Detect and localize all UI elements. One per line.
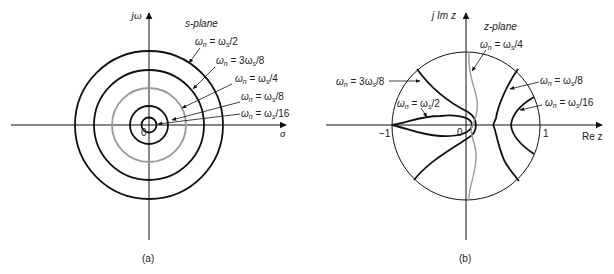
eq-omega: = ω xyxy=(557,97,576,108)
pointer-a-sixteenth xyxy=(158,114,240,124)
omega-n: ω xyxy=(336,76,344,87)
re-z-axis-label: Re z xyxy=(582,131,603,142)
label-a-half: ωn = ωs/2 xyxy=(195,36,238,48)
ratio: /2 xyxy=(431,98,440,109)
eq-omega: = ω xyxy=(253,91,272,102)
im-z-axis-label: j Im z xyxy=(430,10,456,21)
caption-a: (a) xyxy=(142,253,154,264)
z-plane-label: z-plane xyxy=(483,21,517,32)
pointer-b-half xyxy=(421,108,427,117)
eq-omega: = ω xyxy=(492,39,511,50)
origin-label-b: 0 xyxy=(457,127,463,138)
ratio: /8 xyxy=(275,91,284,102)
omega-n: ω xyxy=(235,73,243,84)
caption-b: (b) xyxy=(459,253,471,264)
pointer-b-eighth xyxy=(510,82,539,89)
ratio: /8 xyxy=(376,76,385,87)
label-b-eighth: ωn = ωs/8 xyxy=(540,75,583,87)
ratio: /8 xyxy=(574,75,583,86)
re-z-text: Re z xyxy=(582,131,603,142)
omega-n: ω xyxy=(241,91,249,102)
eq-omega: = ω xyxy=(247,73,266,84)
s-plane-text: s-plane xyxy=(185,18,218,29)
eq-omega: = ω xyxy=(409,98,428,109)
eq-omega: = ω xyxy=(552,75,571,86)
label-a-quarter: ωn = ωs/4 xyxy=(235,73,278,85)
omega-n: ω xyxy=(540,75,548,86)
label-b-sixteenth: ωn = ωs/16 xyxy=(545,97,594,109)
origin-label-a: 0 xyxy=(141,127,147,138)
ratio: /8 xyxy=(256,55,265,66)
label-a-three-eighths: ωn = 3ωs/8 xyxy=(216,55,265,67)
im-z-text: j Im z xyxy=(430,10,456,21)
ratio: /2 xyxy=(229,36,238,47)
omega-n: ω xyxy=(216,55,224,66)
omega-n: ω xyxy=(195,36,203,47)
eq-omega: = ω xyxy=(253,108,272,119)
eq-omega: = ω xyxy=(207,36,226,47)
tick-label-one: 1 xyxy=(543,128,549,139)
panel-b-z-plane: j Im z z-plane Re z 0 −1 1 (b) ωn = ωs/4… xyxy=(326,10,603,264)
sigma-axis-label: σ xyxy=(280,127,286,139)
ratio: /16 xyxy=(275,108,289,119)
label-a-sixteenth: ωn = ωs/16 xyxy=(241,108,290,120)
ratio: /4 xyxy=(514,39,523,50)
label-b-three-eighths: ωn = 3ωs/8 xyxy=(336,76,385,88)
omega-n: ω xyxy=(397,98,405,109)
label-a-eighth: ωn = ωs/8 xyxy=(241,91,284,103)
pointer-b-sixteenth xyxy=(520,105,542,110)
pointer-a-eighth xyxy=(172,102,240,120)
label-b-half: ωn = ωs/2 xyxy=(397,98,440,110)
panel-a-s-plane: jω s-plane σ 0 (a) ωn = ωs/2 ωn = 3ωs/8 … xyxy=(11,9,290,264)
z-plane-text: z-plane xyxy=(483,21,517,32)
ratio: /16 xyxy=(579,97,593,108)
figure-canvas: jω s-plane σ 0 (a) ωn = ωs/2 ωn = 3ωs/8 … xyxy=(0,0,614,274)
tick-label-neg-one: −1 xyxy=(379,128,391,139)
omega-n: ω xyxy=(241,108,249,119)
label-b-quarter: ωn = ωs/4 xyxy=(480,39,523,51)
pointer-a-half xyxy=(189,48,200,63)
s-plane-label: s-plane xyxy=(185,18,218,29)
ratio: /4 xyxy=(269,73,278,84)
jw-axis-label: jω xyxy=(129,9,142,21)
omega-n: ω xyxy=(480,39,488,50)
eq-omega: = 3ω xyxy=(348,76,373,87)
omega-n: ω xyxy=(545,97,553,108)
eq-omega: = 3ω xyxy=(228,55,253,66)
